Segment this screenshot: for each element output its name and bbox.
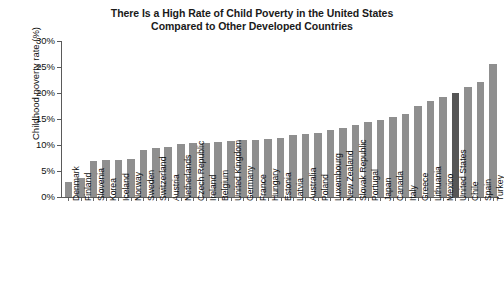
x-axis-label: Greece bbox=[421, 173, 430, 201]
x-axis-label: Spain bbox=[484, 179, 493, 201]
x-axis-label: Czech Republic bbox=[197, 141, 206, 201]
chart-container: There Is a High Rate of Child Poverty in… bbox=[0, 0, 504, 295]
y-tick-label: 30% bbox=[15, 35, 55, 46]
chart-title-line-1: There Is a High Rate of Child Poverty in… bbox=[111, 7, 393, 19]
x-axis-label: Finland bbox=[84, 173, 93, 201]
x-axis-label: Estonia bbox=[284, 172, 293, 201]
x-axis-label: Austria bbox=[172, 174, 181, 201]
x-axis-label: Japan bbox=[384, 178, 393, 201]
x-axis-label: United Kingdom bbox=[234, 140, 243, 201]
x-axis-label: Sweden bbox=[147, 170, 156, 201]
x-axis-label: Norway bbox=[134, 172, 143, 201]
x-axis-labels: DenmarkFinlandSloveniaKoreaIcelandNorway… bbox=[62, 201, 499, 293]
x-axis-label: Hungary bbox=[271, 169, 280, 201]
y-tick-label: 25% bbox=[15, 61, 55, 72]
x-axis-label: Mexico bbox=[446, 174, 455, 201]
y-tick-mark bbox=[57, 197, 62, 198]
y-tick-label: 5% bbox=[15, 165, 55, 176]
x-axis-label: New Zealand bbox=[346, 150, 355, 201]
chart-title: There Is a High Rate of Child Poverty in… bbox=[0, 7, 504, 33]
x-axis-label: Slovenia bbox=[97, 168, 106, 201]
x-axis-label: Netherlands bbox=[184, 155, 193, 201]
x-axis-label: Switzerland bbox=[159, 157, 168, 201]
x-axis-label: Latvia bbox=[296, 178, 305, 201]
x-axis-label: Slovak Republic bbox=[359, 139, 368, 201]
bar-slot bbox=[474, 41, 486, 197]
x-axis-label: Lithuania bbox=[434, 166, 443, 201]
x-axis-label: Belgium bbox=[221, 170, 230, 201]
y-tick-label: 10% bbox=[15, 139, 55, 150]
x-axis-label: Korea bbox=[109, 178, 118, 201]
y-tick-label: 20% bbox=[15, 87, 55, 98]
y-tick-label: 0% bbox=[15, 191, 55, 202]
x-axis-label: France bbox=[259, 174, 268, 201]
x-axis-label: Iceland bbox=[122, 173, 131, 201]
x-axis-label: Turkey bbox=[496, 175, 504, 201]
x-axis-label: Chile bbox=[471, 181, 480, 201]
x-axis-label: Italy bbox=[409, 185, 418, 201]
x-axis-label: Denmark bbox=[72, 166, 81, 201]
chart-title-line-2: Compared to Other Developed Countries bbox=[0, 20, 504, 33]
x-axis-label: Poland bbox=[321, 174, 330, 201]
x-axis-label: Ireland bbox=[209, 175, 218, 201]
x-axis-label: Australia bbox=[309, 168, 318, 201]
x-axis-label: Portugal bbox=[371, 169, 380, 201]
x-axis-label: Canada bbox=[396, 171, 405, 201]
bar-slot bbox=[487, 41, 499, 197]
x-axis-label: Germany bbox=[246, 166, 255, 201]
x-axis-label: Luxembourg bbox=[334, 153, 343, 201]
x-axis-label: United States bbox=[459, 149, 468, 201]
y-tick-label: 15% bbox=[15, 113, 55, 124]
